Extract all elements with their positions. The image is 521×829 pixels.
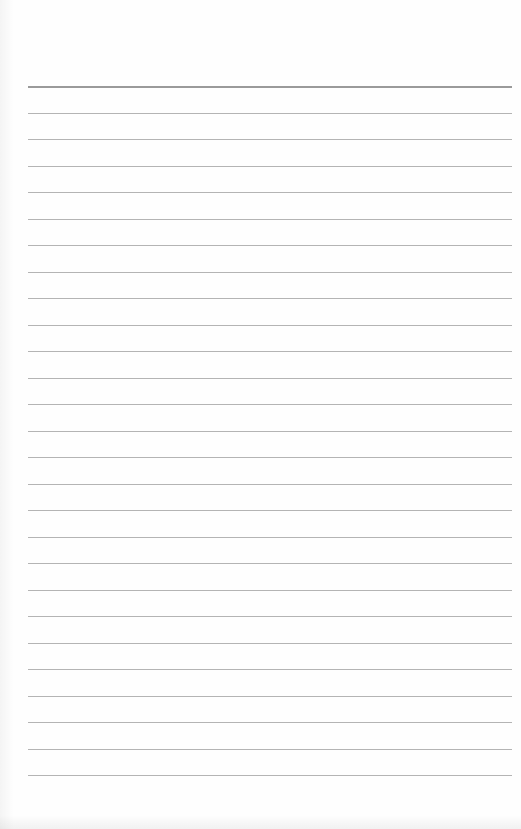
rule-line <box>28 378 512 379</box>
rule-line <box>28 590 512 591</box>
rule-line <box>28 510 512 511</box>
rule-line <box>28 696 512 697</box>
rule-line <box>28 272 512 273</box>
top-rule-line <box>28 86 512 88</box>
rule-line <box>28 749 512 750</box>
rule-line <box>28 351 512 352</box>
lined-paper-page <box>0 0 521 829</box>
rule-line <box>28 431 512 432</box>
rule-line <box>28 616 512 617</box>
rule-line <box>28 669 512 670</box>
rule-line <box>28 484 512 485</box>
rule-line <box>28 537 512 538</box>
rule-line <box>28 325 512 326</box>
scan-edge-shadow-bottom <box>0 815 521 829</box>
rule-line <box>28 113 512 114</box>
rule-line <box>28 457 512 458</box>
rule-line <box>28 166 512 167</box>
scan-edge-shadow-left <box>0 0 14 829</box>
rule-line <box>28 192 512 193</box>
rule-line <box>28 245 512 246</box>
rule-line <box>28 139 512 140</box>
rule-line <box>28 775 512 776</box>
rule-line <box>28 298 512 299</box>
rule-line <box>28 219 512 220</box>
rule-line <box>28 722 512 723</box>
rule-line <box>28 563 512 564</box>
rule-line <box>28 404 512 405</box>
rule-line <box>28 643 512 644</box>
